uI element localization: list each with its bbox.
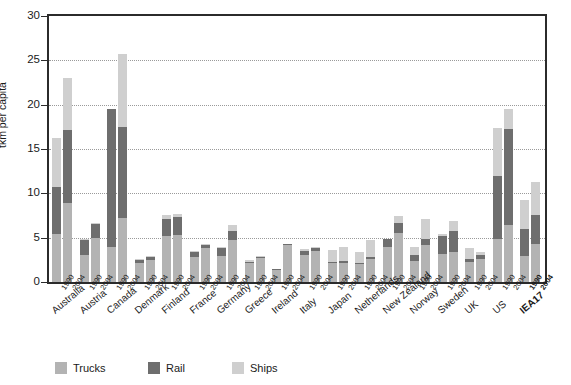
segment-ships bbox=[162, 215, 171, 219]
bar-group-finland bbox=[159, 16, 187, 282]
segment-rail bbox=[107, 109, 116, 247]
segment-ships bbox=[449, 221, 458, 231]
segment-rail bbox=[190, 252, 199, 257]
legend-label-rail: Rail bbox=[166, 362, 185, 374]
y-tick-label-10: 10 bbox=[14, 187, 40, 199]
legend-label-ships: Ships bbox=[250, 362, 278, 374]
x-country-label-japan: Japan bbox=[326, 290, 353, 315]
segment-rail bbox=[146, 257, 155, 260]
bar-finland-1990[interactable] bbox=[162, 215, 171, 282]
segment-rail bbox=[52, 187, 61, 234]
y-tick-label-20: 20 bbox=[14, 99, 40, 111]
segment-ships bbox=[311, 247, 320, 248]
segment-rail bbox=[135, 260, 144, 263]
segment-ships bbox=[328, 250, 337, 262]
segment-rail bbox=[245, 262, 254, 264]
bars-layer bbox=[49, 16, 545, 282]
chart-legend: TrucksRailShips bbox=[0, 358, 571, 378]
segment-rail bbox=[476, 255, 485, 259]
segment-rail bbox=[504, 129, 513, 226]
segment-ships bbox=[355, 252, 364, 263]
x-country-label-uk: UK bbox=[463, 299, 480, 316]
bar-group-australia bbox=[49, 16, 77, 282]
segment-rail bbox=[162, 219, 171, 236]
segment-ships bbox=[256, 256, 265, 257]
segment-rail bbox=[421, 239, 430, 245]
segment-ships bbox=[80, 239, 89, 240]
bar-new-zealand-2004[interactable] bbox=[394, 216, 403, 283]
bar-finland-2004[interactable] bbox=[173, 214, 182, 282]
segment-rail bbox=[201, 245, 210, 249]
segment-ships bbox=[366, 240, 375, 257]
bar-group-norway bbox=[407, 16, 435, 282]
bar-canada-1990[interactable] bbox=[107, 109, 116, 282]
y-tick-label-5: 5 bbox=[14, 232, 40, 244]
segment-ships bbox=[52, 138, 61, 188]
segment-rail bbox=[410, 255, 419, 260]
segment-rail bbox=[520, 229, 529, 256]
legend-swatch-ships bbox=[232, 362, 244, 374]
segment-ships bbox=[504, 109, 513, 129]
segment-trucks bbox=[63, 203, 72, 282]
bar-australia-2004[interactable] bbox=[63, 78, 72, 282]
bar-group-germany bbox=[214, 16, 242, 282]
bar-group-france bbox=[187, 16, 215, 282]
x-country-label-italy: Italy bbox=[298, 296, 318, 315]
bar-us-1990[interactable] bbox=[493, 128, 502, 282]
x-country-label-us: US bbox=[491, 299, 508, 316]
segment-rail bbox=[91, 224, 100, 238]
segment-ships bbox=[394, 216, 403, 224]
segment-rail bbox=[438, 236, 447, 254]
bar-iea17-1990[interactable] bbox=[520, 200, 529, 282]
bar-canada-2004[interactable] bbox=[118, 54, 127, 282]
segment-rail bbox=[493, 176, 502, 240]
bar-group-netherlands bbox=[352, 16, 380, 282]
bar-iea17-2004[interactable] bbox=[531, 182, 540, 282]
legend-item-ships[interactable]: Ships bbox=[232, 362, 278, 374]
segment-rail bbox=[531, 215, 540, 244]
segment-rail bbox=[311, 247, 320, 251]
segment-ships bbox=[531, 182, 540, 215]
segment-ships bbox=[520, 200, 529, 229]
y-tick-label-30: 30 bbox=[14, 10, 40, 22]
y-tick-label-25: 25 bbox=[14, 54, 40, 66]
x-axis-labels: 19902004Australia19902004Austria19902004… bbox=[0, 284, 571, 354]
segment-rail bbox=[449, 231, 458, 252]
bar-group-denmark bbox=[132, 16, 160, 282]
segment-rail bbox=[63, 130, 72, 204]
legend-item-rail[interactable]: Rail bbox=[148, 362, 185, 374]
segment-ships bbox=[146, 256, 155, 257]
bar-group-japan bbox=[325, 16, 353, 282]
bar-group-austria bbox=[77, 16, 105, 282]
bar-us-2004[interactable] bbox=[504, 109, 513, 282]
y-tick-label-15: 15 bbox=[14, 143, 40, 155]
legend-item-trucks[interactable]: Trucks bbox=[55, 362, 106, 374]
segment-ships bbox=[438, 234, 447, 236]
segment-ships bbox=[493, 128, 502, 176]
segment-ships bbox=[91, 223, 100, 224]
segment-rail bbox=[228, 231, 237, 240]
segment-ships bbox=[118, 54, 127, 127]
segment-ships bbox=[217, 247, 226, 248]
segment-rail bbox=[328, 262, 337, 264]
segment-ships bbox=[476, 252, 485, 256]
segment-rail bbox=[283, 244, 292, 245]
segment-rail bbox=[383, 239, 392, 248]
segment-rail bbox=[394, 223, 403, 233]
segment-ships bbox=[190, 251, 199, 252]
x-country-label-ireland: Ireland bbox=[270, 288, 300, 315]
segment-ships bbox=[201, 244, 210, 245]
segment-ships bbox=[300, 249, 309, 251]
x-country-label-iea17: IEA17 bbox=[518, 290, 546, 316]
legend-swatch-rail bbox=[148, 362, 160, 374]
segment-ships bbox=[173, 214, 182, 218]
segment-ships bbox=[245, 260, 254, 262]
bar-australia-1990[interactable] bbox=[52, 137, 61, 282]
x-country-label-france: France bbox=[188, 288, 218, 316]
freight-intensity-stacked-bar-chart: tkm per capita 051015202530 19902004Aust… bbox=[0, 0, 571, 385]
y-axis-title: tkm per capita bbox=[0, 28, 8, 148]
bar-group-ireland bbox=[269, 16, 297, 282]
bar-group-iea17 bbox=[517, 16, 545, 282]
segment-ships bbox=[465, 248, 474, 259]
bar-group-uk bbox=[462, 16, 490, 282]
